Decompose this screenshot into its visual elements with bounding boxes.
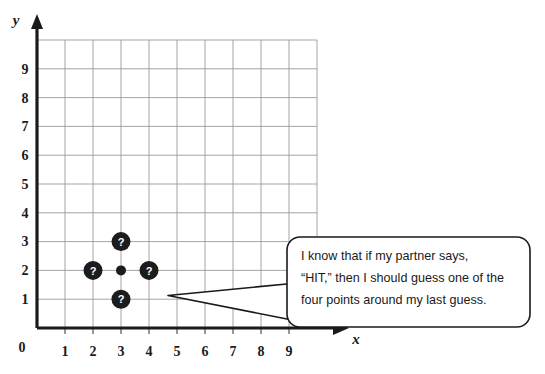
origin-tick-label: 0 [19, 340, 26, 355]
data-point-question-3-1[interactable]: ? [112, 290, 131, 309]
x-tick-label: 6 [202, 344, 209, 359]
y-tick-label: 1 [22, 292, 29, 307]
question-marker-label: ? [118, 236, 125, 248]
y-tick-label: 9 [22, 62, 29, 77]
callout-tail [168, 284, 292, 321]
x-tick-label: 8 [258, 344, 265, 359]
question-marker-label: ? [118, 293, 125, 305]
y-tick-label: 5 [22, 177, 29, 192]
y-tick-label: 7 [22, 119, 29, 134]
x-axis-tick-labels: 1 2 3 4 5 6 7 8 9 [62, 344, 293, 359]
callout-text-line: I know that if my partner says, [301, 249, 468, 263]
data-point-question-2-2[interactable]: ? [84, 261, 103, 280]
y-tick-label: 6 [22, 148, 29, 163]
y-tick-label: 2 [22, 263, 29, 278]
y-axis-arrow-icon [31, 14, 43, 29]
x-tick-label: 5 [174, 344, 181, 359]
question-marker-label: ? [90, 265, 97, 277]
data-point-question-4-2[interactable]: ? [140, 261, 159, 280]
callout-text-line: “HIT,” then I should guess one of the [301, 271, 504, 285]
y-tick-label: 3 [22, 234, 29, 249]
x-tick-label: 9 [286, 344, 293, 359]
figure-canvas: y x 1 2 3 4 5 6 7 8 9 0 1 2 3 4 5 6 7 8 … [0, 0, 545, 374]
x-tick-label: 7 [230, 344, 237, 359]
y-axis-label: y [11, 12, 20, 28]
y-tick-label: 4 [22, 206, 29, 221]
x-axis-label: x [351, 331, 360, 347]
graph-figure: y x 1 2 3 4 5 6 7 8 9 0 1 2 3 4 5 6 7 8 … [0, 0, 545, 374]
y-tick-label: 8 [22, 91, 29, 106]
x-tick-label: 4 [146, 344, 153, 359]
data-point-last-guess-3-2[interactable] [116, 265, 126, 275]
callout-text-line: four points around my last guess. [301, 293, 487, 307]
y-axis-tick-labels: 1 2 3 4 5 6 7 8 9 [22, 62, 29, 307]
x-tick-label: 3 [118, 344, 125, 359]
question-marker-label: ? [146, 265, 153, 277]
data-point-question-3-3[interactable]: ? [112, 232, 131, 251]
x-tick-label: 1 [62, 344, 69, 359]
x-tick-label: 2 [90, 344, 97, 359]
